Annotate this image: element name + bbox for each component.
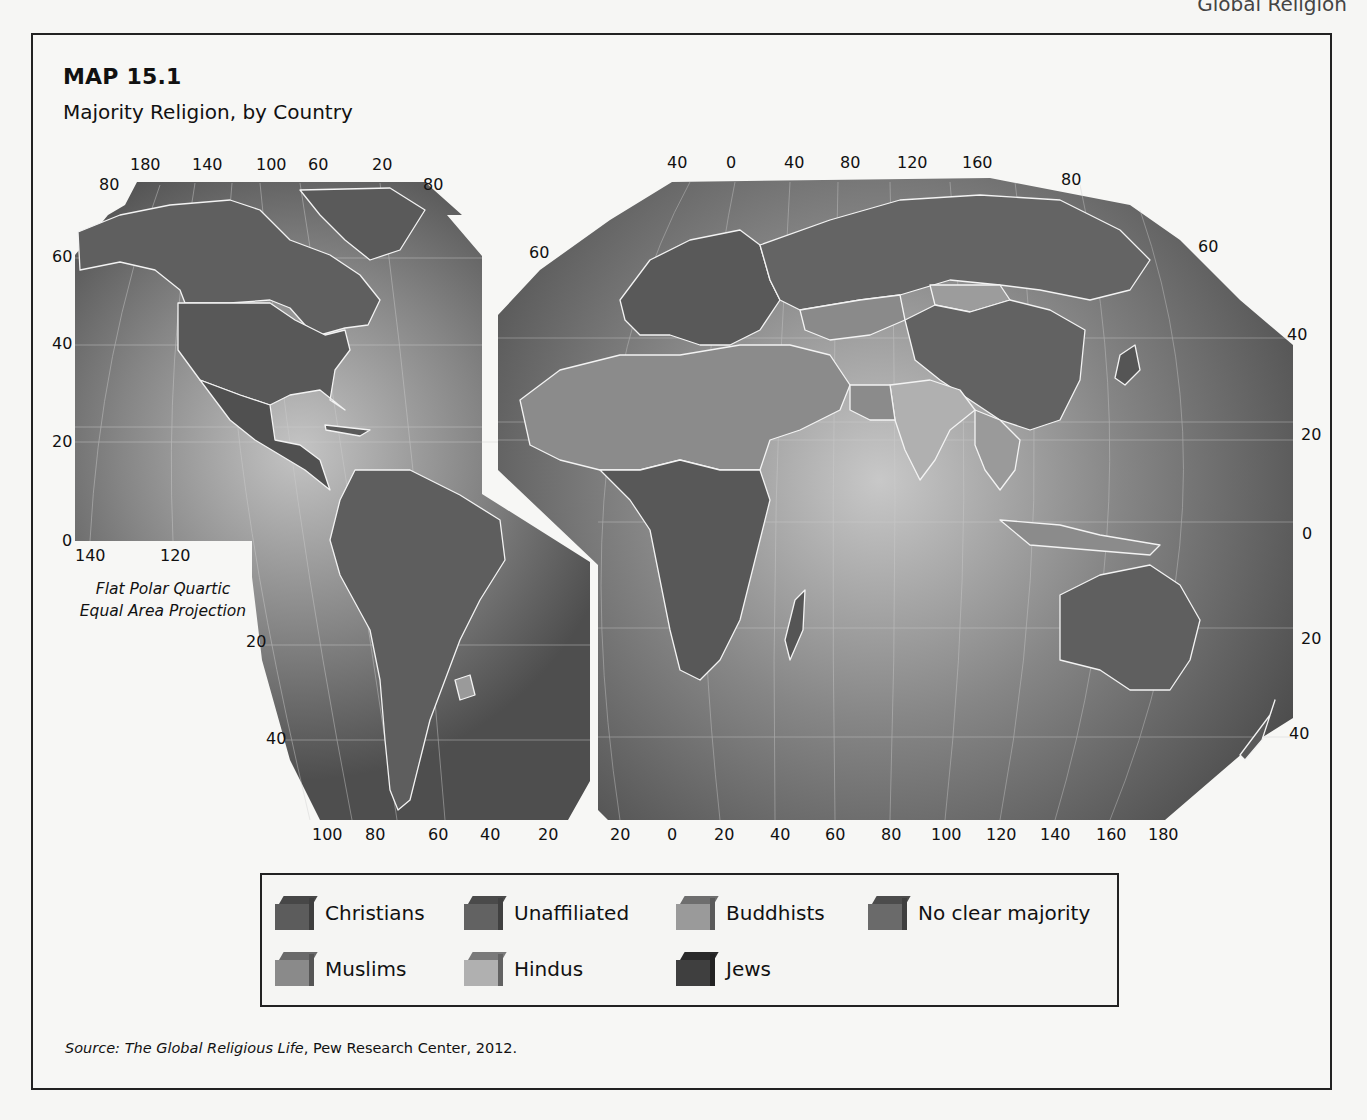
unaffiliated-swatch-icon (464, 896, 504, 930)
legend-item-no-clear-majority: No clear majority (868, 895, 1090, 931)
jews-swatch-icon (676, 952, 716, 986)
americas-panel (75, 182, 590, 820)
muslims-swatch-icon (275, 952, 315, 986)
map-legend: Christians Unaffiliated Buddhists No cle… (260, 873, 1119, 1007)
buddhists-swatch-icon (676, 896, 716, 930)
legend-item-hindus: Hindus (464, 951, 583, 987)
legend-item-unaffiliated: Unaffiliated (464, 895, 629, 931)
legend-item-christians: Christians (275, 895, 425, 931)
eastern-hemisphere-panel (498, 178, 1293, 820)
hindus-swatch-icon (464, 952, 504, 986)
no-clear-majority-swatch-icon (868, 896, 908, 930)
legend-item-buddhists: Buddhists (676, 895, 825, 931)
christians-swatch-icon (275, 896, 315, 930)
right-lat-left-tick: 60 (529, 243, 549, 262)
legend-item-muslims: Muslims (275, 951, 406, 987)
legend-item-jews: Jews (676, 951, 771, 987)
projection-note: Flat Polar Quartic Equal Area Projection (68, 578, 258, 622)
source-citation: Source: The Global Religious Life, Pew R… (65, 1040, 517, 1056)
